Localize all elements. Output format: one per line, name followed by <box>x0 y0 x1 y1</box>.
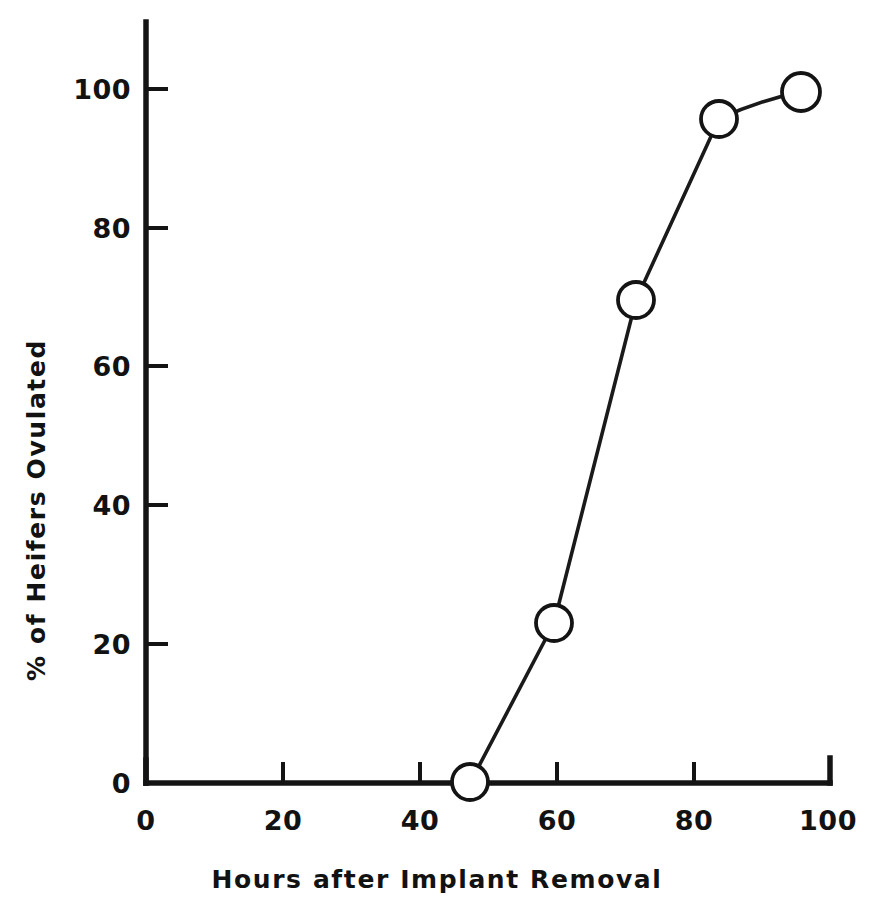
x-tick-label-0: 0 <box>136 805 155 836</box>
y-tick-label-100: 100 <box>73 74 131 105</box>
y-tick-label-0: 0 <box>112 768 131 799</box>
y-tick-label-40: 40 <box>92 490 131 521</box>
line-chart: 100 80 60 40 20 0 0 20 40 60 80 100 % <box>0 0 871 912</box>
data-point-marker[interactable] <box>618 282 654 318</box>
y-tick-label-80: 80 <box>92 213 131 244</box>
x-tick-label-100: 100 <box>799 805 857 836</box>
x-tick-label-80: 80 <box>675 805 714 836</box>
data-series-line <box>470 92 801 783</box>
x-axis-title: Hours after Implant Removal <box>211 865 662 894</box>
data-point-marker[interactable] <box>536 605 572 641</box>
x-tick-labels: 0 20 40 60 80 100 <box>136 805 857 836</box>
y-tick-label-60: 60 <box>92 351 131 382</box>
y-tick-marks <box>147 89 168 644</box>
y-tick-label-20: 20 <box>92 629 131 660</box>
y-axis-title: % of Heifers Ovulated <box>22 339 51 681</box>
data-point-marker[interactable] <box>452 764 488 800</box>
figure-canvas: 100 80 60 40 20 0 0 20 40 60 80 100 % <box>0 0 871 912</box>
data-series-group <box>452 73 820 800</box>
data-point-marker[interactable] <box>782 73 820 111</box>
x-tick-label-20: 20 <box>264 805 303 836</box>
x-tick-label-60: 60 <box>538 805 577 836</box>
y-tick-labels: 100 80 60 40 20 0 <box>73 74 131 799</box>
x-tick-label-40: 40 <box>401 805 440 836</box>
data-point-marker[interactable] <box>701 101 737 137</box>
